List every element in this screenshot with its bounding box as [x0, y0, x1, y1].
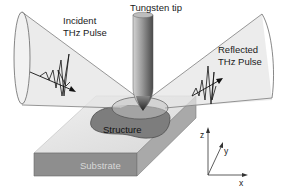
tungsten-tip-top — [133, 12, 153, 18]
x-axis-label: x — [239, 178, 244, 188]
y-axis-arrow-icon — [219, 142, 223, 148]
thz-near-field-diagram: z y x Tungsten tip Incident THz Pulse Re… — [0, 0, 282, 189]
reflected-pulse-label-line2: THz Pulse — [218, 56, 262, 67]
incident-pulse-label-line2: THz Pulse — [63, 27, 107, 38]
coordinate-axes: z y x — [200, 127, 248, 188]
x-axis-arrow-icon — [242, 173, 248, 177]
incident-beam-aperture — [14, 12, 30, 104]
reflected-pulse-label-line1: Reflected — [218, 44, 258, 55]
tungsten-tip-shaft — [133, 15, 153, 110]
tungsten-tip — [133, 12, 153, 111]
tungsten-tip-label: Tungsten tip — [130, 2, 182, 13]
y-axis-label: y — [224, 146, 229, 156]
z-axis-label: z — [200, 130, 204, 140]
z-axis-arrow-icon — [206, 127, 210, 133]
substrate-label: Substrate — [80, 160, 121, 171]
structure-label: Structure — [103, 124, 142, 135]
y-axis — [208, 145, 222, 175]
incident-pulse-label-line1: Incident — [63, 15, 97, 26]
